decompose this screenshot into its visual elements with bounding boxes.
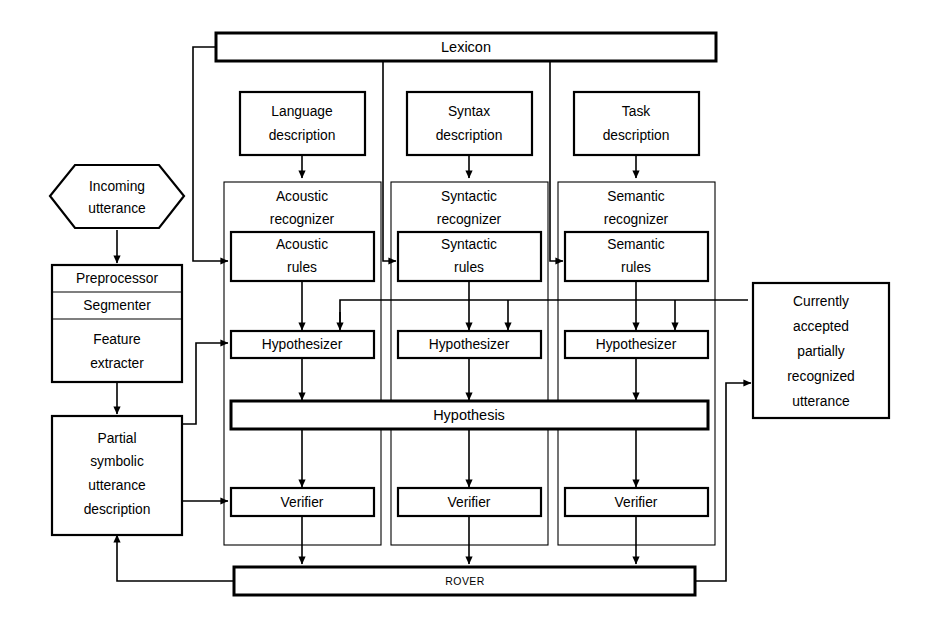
- partial-symbolic-line3: utterance: [88, 478, 146, 493]
- currently-accepted-line5: utterance: [792, 394, 850, 409]
- language-description-box[interactable]: [240, 92, 365, 155]
- verifier-2-label: Verifier: [448, 495, 491, 510]
- lexicon-label: Lexicon: [441, 39, 491, 55]
- task-description-box[interactable]: [574, 92, 699, 155]
- partial-symbolic-line1: Partial: [97, 431, 136, 446]
- connector-accepted-to-hypothesizers-bus: [340, 300, 748, 329]
- currently-accepted-line4: recognized: [787, 369, 855, 384]
- diagram-canvas: Lexicon Incoming utterance Preprocessor …: [0, 0, 943, 635]
- partial-symbolic-line2: symbolic: [90, 454, 144, 469]
- acoustic-recognizer-line2: recognizer: [270, 212, 335, 227]
- hypothesizer-1-label: Hypothesizer: [262, 337, 343, 352]
- acoustic-recognizer-line1: Acoustic: [276, 189, 328, 204]
- acoustic-rules-line2: rules: [287, 260, 317, 275]
- hypothesizer-2-label: Hypothesizer: [429, 337, 510, 352]
- language-description-line1: Language: [271, 104, 333, 119]
- connector-lexicon-to-semantic-rules: [550, 60, 563, 261]
- semantic-rules-line2: rules: [621, 260, 651, 275]
- semantic-rules-line1: Semantic: [607, 237, 665, 252]
- preprocessor-label: Preprocessor: [76, 271, 158, 286]
- language-description-line2: description: [269, 128, 336, 143]
- task-description-line1: Task: [622, 104, 650, 119]
- connector-lexicon-to-syntactic-rules: [383, 60, 396, 261]
- incoming-utterance-hexagon[interactable]: [50, 165, 184, 228]
- verifier-3-label: Verifier: [615, 495, 658, 510]
- hypothesis-label: Hypothesis: [433, 407, 505, 423]
- semantic-recognizer-line1: Semantic: [607, 189, 665, 204]
- connector-rover-to-partial: [117, 535, 234, 581]
- incoming-utterance-label-line2: utterance: [88, 201, 146, 216]
- feature-extracter-label-line1: Feature: [93, 332, 141, 347]
- acoustic-rules-line1: Acoustic: [276, 237, 328, 252]
- flowchart-svg: Lexicon Incoming utterance Preprocessor …: [0, 0, 943, 635]
- currently-accepted-line2: accepted: [793, 319, 849, 334]
- syntactic-rules-line2: rules: [454, 260, 484, 275]
- verifier-1-label: Verifier: [281, 495, 324, 510]
- rover-label: ROVER: [445, 575, 484, 587]
- syntactic-recognizer-line2: recognizer: [437, 212, 502, 227]
- feature-extracter-label-line2: extracter: [90, 356, 144, 371]
- segmenter-label: Segmenter: [83, 298, 151, 313]
- task-description-line2: description: [603, 128, 670, 143]
- incoming-utterance-label-line1: Incoming: [89, 179, 145, 194]
- currently-accepted-line1: Currently: [793, 294, 849, 309]
- hypothesizer-3-label: Hypothesizer: [596, 337, 677, 352]
- syntactic-rules-line1: Syntactic: [441, 237, 497, 252]
- semantic-recognizer-line2: recognizer: [604, 212, 669, 227]
- partial-symbolic-line4: description: [84, 502, 151, 517]
- connector-lexicon-to-acoustic-rules: [193, 47, 228, 261]
- connector-features-to-hypothesizer1: [182, 343, 228, 424]
- syntactic-recognizer-line1: Syntactic: [441, 189, 497, 204]
- syntax-description-line1: Syntax: [448, 104, 490, 119]
- syntax-description-box[interactable]: [407, 92, 532, 155]
- currently-accepted-line3: partially: [797, 344, 845, 359]
- syntax-description-line2: description: [436, 128, 503, 143]
